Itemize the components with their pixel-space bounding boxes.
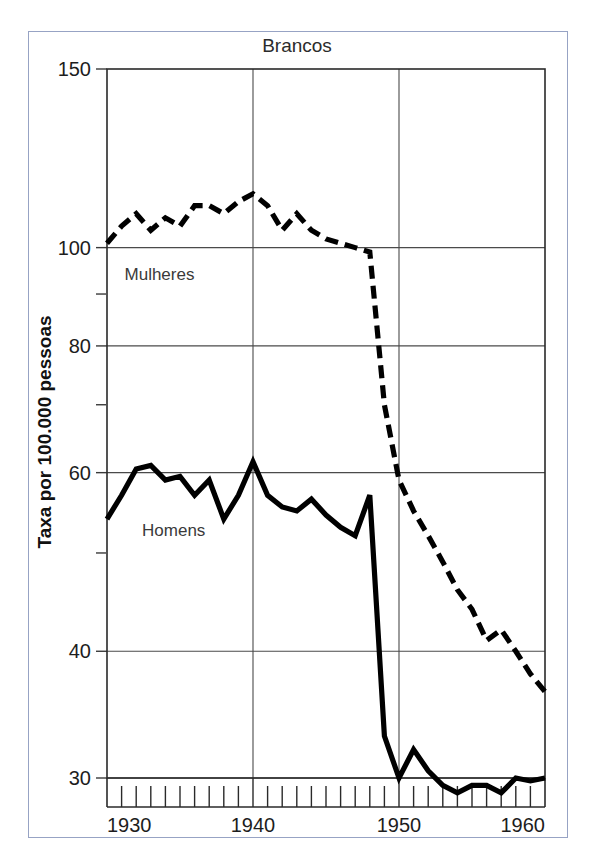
y-tick-label: 100: [58, 237, 91, 259]
x-tick-label: 1960: [501, 814, 546, 836]
series-annotation: Homens: [142, 521, 205, 540]
y-axis-label: Taxa por 100.000 pessoas: [34, 315, 55, 548]
y-tick-label: 60: [69, 462, 91, 484]
y-tick-label: 30: [69, 767, 91, 789]
x-tick-label: 1950: [377, 814, 422, 836]
figure-frame: Brancos Taxa por 100.000 pessoas 3040608…: [28, 31, 568, 838]
plot-area-border: [107, 69, 545, 778]
y-tick-label: 80: [69, 335, 91, 357]
x-tick-label: 1940: [231, 814, 276, 836]
y-tick-label: 150: [58, 58, 91, 80]
series-annotations: MulheresHomens: [125, 265, 206, 540]
plot-border: [107, 69, 545, 778]
y-axis-ticks: 30406080100150: [58, 58, 107, 789]
x-tick-label: 1930: [107, 814, 152, 836]
y-tick-label: 40: [69, 640, 91, 662]
figure-container: Brancos Taxa por 100.000 pessoas 3040608…: [0, 0, 596, 867]
data-series: [107, 194, 545, 793]
grid-lines: [107, 69, 545, 778]
chart-title: Brancos: [262, 35, 332, 56]
chart-canvas: Brancos Taxa por 100.000 pessoas 3040608…: [29, 32, 566, 836]
series-annotation: Mulheres: [125, 265, 195, 284]
